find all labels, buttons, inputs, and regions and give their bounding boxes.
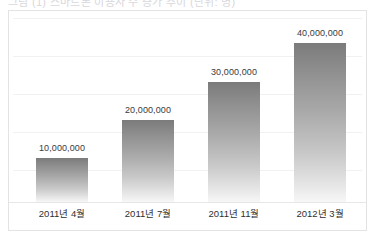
- bar[interactable]: [36, 158, 88, 202]
- x-axis-label: 2012년 3월: [277, 206, 363, 220]
- clipped-caption-text: 그림 (1) 스마트폰 이용자 수 증가 추이 (단위: 명): [8, 0, 236, 8]
- bar[interactable]: [122, 120, 174, 202]
- bar-group: 20,000,000: [122, 120, 174, 202]
- bar-series: 10,000,000 20,000,000 30,000,000 40,000,…: [9, 11, 366, 202]
- bar-value-label: 20,000,000: [125, 105, 171, 115]
- bar[interactable]: [294, 43, 346, 202]
- clipped-caption-row: 그림 (1) 스마트폰 이용자 수 증가 추이 (단위: 명): [0, 0, 377, 8]
- bar-group: 10,000,000: [36, 158, 88, 202]
- x-axis-label: 2011년 11월: [191, 206, 277, 220]
- x-axis-label: 2011년 4월: [19, 206, 105, 220]
- x-axis-label: 2011년 7월: [105, 206, 191, 220]
- bar-group: 30,000,000: [208, 82, 260, 202]
- chart-screenshot: 그림 (1) 스마트폰 이용자 수 증가 추이 (단위: 명) 10,000,0…: [0, 0, 377, 239]
- bar-value-label: 30,000,000: [211, 67, 257, 77]
- x-axis-labels: 2011년 4월 2011년 7월 2011년 11월 2012년 3월: [9, 206, 366, 226]
- bar-value-label: 10,000,000: [39, 143, 85, 153]
- bar[interactable]: [208, 82, 260, 202]
- bar-value-label: 40,000,000: [297, 28, 343, 38]
- bar-group: 40,000,000: [294, 43, 346, 202]
- axis-baseline: [9, 202, 366, 203]
- plot-area: 10,000,000 20,000,000 30,000,000 40,000,…: [9, 11, 366, 202]
